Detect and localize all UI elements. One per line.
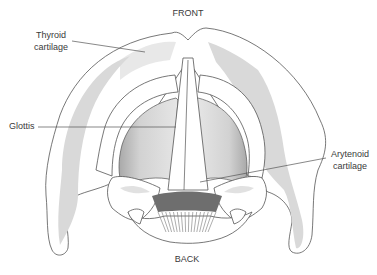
- arytenoid-label-line1: Arytenoid: [331, 149, 369, 159]
- glottis-label: Glottis: [9, 121, 35, 131]
- interarytenoid-muscle: [152, 192, 222, 213]
- larynx-diagram: FRONT BACK Thyroid cartilage Glottis Ary…: [0, 0, 377, 275]
- thyroid-label-line1: Thyroid: [36, 30, 66, 40]
- arytenoid-label-line2: cartilage: [333, 161, 367, 171]
- back-label: BACK: [175, 254, 200, 264]
- front-label: FRONT: [173, 8, 204, 18]
- thyroid-label-line2: cartilage: [34, 42, 68, 52]
